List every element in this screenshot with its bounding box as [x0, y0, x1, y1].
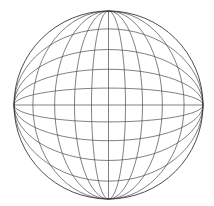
globe-icon	[0, 0, 214, 206]
center-axes	[14, 11, 203, 199]
globe-wireframe-diagram	[0, 0, 214, 206]
